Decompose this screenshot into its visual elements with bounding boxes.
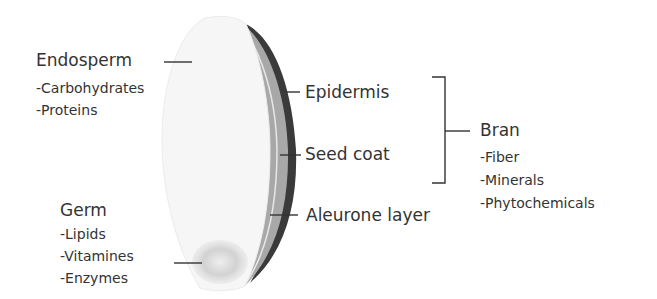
- germ-title: Germ: [60, 200, 107, 220]
- germ-item: -Enzymes: [60, 268, 128, 288]
- germ-item: -Lipids: [60, 224, 106, 244]
- endosperm-title: Endosperm: [36, 50, 132, 70]
- germ-region: [192, 240, 248, 284]
- endosperm-item: -Carbohydrates: [36, 78, 144, 98]
- bran-title: Bran: [480, 120, 520, 140]
- bran-item: -Minerals: [480, 170, 544, 190]
- endosperm-item: -Proteins: [36, 100, 97, 120]
- aleurone-label: Aleurone layer: [306, 205, 430, 225]
- germ-item: -Vitamines: [60, 246, 134, 266]
- bran-item: -Fiber: [480, 147, 519, 167]
- bran-item: -Phytochemicals: [480, 193, 595, 213]
- seed-coat-label: Seed coat: [305, 144, 390, 164]
- epidermis-label: Epidermis: [305, 82, 389, 102]
